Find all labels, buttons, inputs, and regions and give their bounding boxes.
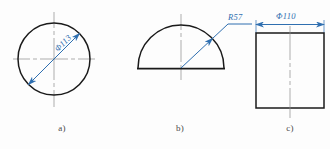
radius-dimension-line-b [181,39,213,69]
figure-caption-c: c) [270,123,310,133]
figure-b-group: R57 [137,12,252,80]
figure-c-group: Φ110 [256,11,324,118]
drawing-sheet: Φ113 R57 Φ110 [0,0,330,149]
dimension-label-b: R57 [227,12,243,22]
figure-a-group: Φ113 [13,12,95,107]
radius-leader-diagonal-b [213,24,229,39]
dimension-label-c: Φ110 [276,11,296,21]
figure-caption-b: b) [160,123,200,133]
figure-caption-a: a) [42,123,82,133]
